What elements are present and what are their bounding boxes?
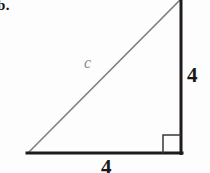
- hypotenuse-label: c: [84, 55, 91, 71]
- horizontal-leg-label: 4: [101, 157, 112, 173]
- right-triangle-svg: [0, 0, 210, 173]
- right-angle-marker: [163, 135, 181, 153]
- hypotenuse-line: [28, 0, 181, 153]
- figure-canvas: b. c 4 4: [0, 0, 210, 173]
- vertical-leg-label: 4: [187, 65, 198, 86]
- problem-number-label: b.: [0, 0, 10, 13]
